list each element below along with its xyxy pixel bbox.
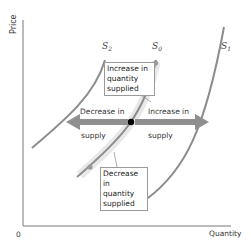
box-line: Decrease in	[103, 169, 145, 189]
s2-label: S2	[102, 41, 112, 52]
y-axis-label: Price	[9, 14, 18, 34]
origin-label: 0	[16, 230, 21, 239]
box-line: Increase in	[107, 64, 152, 74]
increase-supply-arrow	[135, 114, 209, 130]
box-line: supplied	[107, 84, 152, 94]
increase-supply-label-2: supply	[148, 131, 173, 140]
s0-label: S0	[152, 41, 162, 52]
box-line: quantity	[103, 189, 145, 199]
x-axis-label: Quantity	[209, 229, 242, 238]
box-line: supplied	[103, 199, 145, 209]
increase-supply-label-1: Increase in	[148, 107, 189, 116]
decrease-supply-label-2: supply	[81, 131, 106, 140]
increase-quantity-supplied-box: Increase in quantity supplied	[104, 62, 155, 96]
lower-point	[87, 164, 92, 169]
decrease-supply-arrow	[66, 114, 128, 130]
decrease-supply-label-1: Decrease in	[80, 107, 124, 116]
box-line: quantity	[107, 74, 152, 84]
supply-diagram: Price Quantity 0 S2 S0 S1	[0, 0, 251, 249]
decrease-quantity-supplied-box: Decrease in quantity supplied	[100, 167, 148, 211]
s1-label: S1	[221, 41, 231, 52]
leader-line-decrease	[114, 152, 117, 167]
equilibrium-point	[128, 119, 134, 125]
